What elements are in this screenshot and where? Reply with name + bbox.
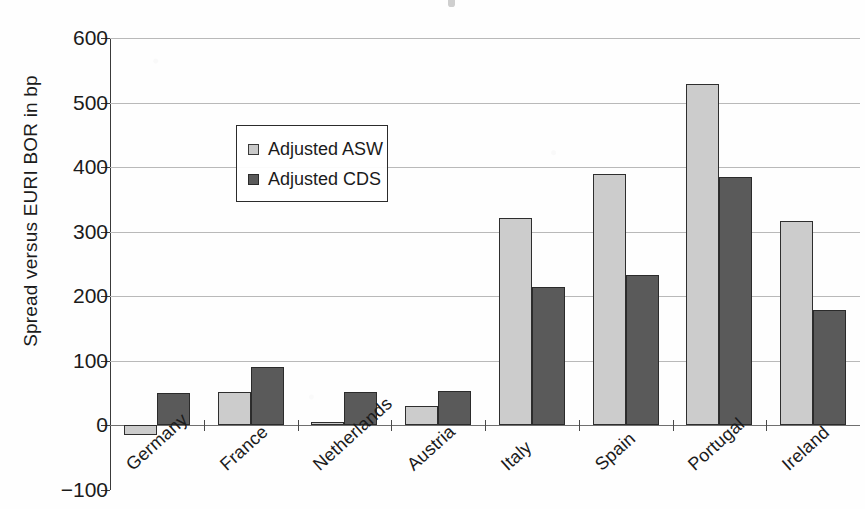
- gridline-500: [110, 103, 860, 104]
- bar-italy-cds: [532, 287, 565, 426]
- y-tick-label-600: 600: [0, 27, 108, 48]
- x-tick-3: [391, 420, 392, 431]
- y-tick-label-400: 400: [0, 156, 108, 177]
- cropped-title-descender: [448, 0, 455, 7]
- bar-ireland-asw: [780, 221, 813, 425]
- bar-france-asw: [218, 392, 251, 426]
- gridline-600: [110, 38, 860, 39]
- plot-area: 6005004003002001000−100 GermanyFranceNet…: [110, 38, 860, 490]
- x-label-italy: Italy: [497, 437, 536, 475]
- x-tick-2: [298, 420, 299, 431]
- bar-austria-asw: [405, 406, 438, 425]
- bar-austria-cds: [438, 391, 471, 426]
- y-axis-line: [110, 38, 111, 490]
- bar-netherlands-asw: [311, 422, 344, 426]
- x-label-spain: Spain: [591, 429, 640, 476]
- bar-france-cds: [251, 367, 284, 425]
- legend-label-cds: Adjusted CDS: [268, 169, 381, 190]
- bar-portugal-cds: [719, 177, 752, 426]
- y-tick-label-100: 100: [0, 350, 108, 371]
- bar-italy-asw: [499, 218, 532, 426]
- y-tick-label-300: 300: [0, 221, 108, 242]
- y-tick-label-200: 200: [0, 285, 108, 306]
- chart-legend: Adjusted ASW Adjusted CDS: [236, 125, 388, 202]
- x-label-austria: Austria: [403, 422, 460, 476]
- gridline-400: [110, 167, 860, 168]
- bar-chart-figure: Spread versus EURI BOR in bp 60050040030…: [0, 0, 865, 509]
- y-tick-label--100: −100: [0, 479, 108, 500]
- x-tick-7: [766, 420, 767, 431]
- bar-spain-cds: [626, 275, 659, 425]
- bar-ireland-cds: [813, 310, 846, 426]
- legend-item-cds: Adjusted CDS: [248, 164, 387, 194]
- x-tick-1: [204, 420, 205, 431]
- legend-swatch-asw-icon: [248, 144, 259, 155]
- x-tick-4: [485, 420, 486, 431]
- x-label-ireland: Ireland: [778, 422, 834, 475]
- legend-swatch-cds-icon: [248, 174, 259, 185]
- y-tick-label-500: 500: [0, 92, 108, 113]
- y-tick-label-0: 0: [0, 414, 108, 435]
- x-tick-6: [673, 420, 674, 431]
- bar-portugal-asw: [686, 84, 719, 425]
- legend-item-asw: Adjusted ASW: [248, 134, 387, 164]
- x-label-france: France: [216, 422, 273, 476]
- x-tick-5: [579, 420, 580, 431]
- bar-spain-asw: [593, 174, 626, 426]
- legend-label-asw: Adjusted ASW: [268, 139, 383, 160]
